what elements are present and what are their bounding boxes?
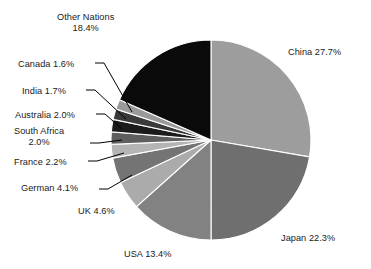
pie-label-south-africa: South Africa2.0% — [14, 126, 64, 149]
pie-chart-figure: China 27.7%Japan 22.3%USA 13.4%UK 4.6%Ge… — [0, 0, 371, 269]
pie-label-china: China 27.7% — [288, 47, 341, 58]
pie-label-india: India 1.7% — [22, 86, 66, 97]
pie-label-other-nations: Other Nations18.4% — [57, 12, 114, 35]
pie-label-australia: Australia 2.0% — [15, 110, 75, 121]
pie-label-canada: Canada 1.6% — [18, 59, 74, 70]
pie-label-france: France 2.2% — [14, 157, 67, 168]
pie-label-japan: Japan 22.3% — [281, 233, 335, 244]
pie-label-line-2: 2.0% — [14, 137, 64, 148]
pie-label-line-2: 18.4% — [57, 23, 114, 34]
pie-label-german: German 4.1% — [21, 183, 78, 194]
pie-label-usa: USA 13.4% — [124, 249, 171, 260]
pie-slice-japan[interactable] — [211, 140, 310, 240]
pie-label-line-1: Other Nations — [57, 12, 114, 23]
pie-label-uk: UK 4.6% — [78, 206, 115, 217]
pie-slices-group — [111, 40, 311, 240]
pie-label-line-1: South Africa — [14, 126, 64, 137]
